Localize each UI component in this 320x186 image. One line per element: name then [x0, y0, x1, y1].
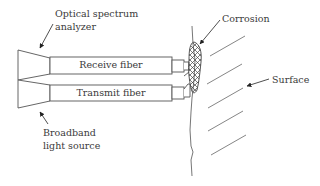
- corrosion-label: Corrosion: [222, 12, 270, 25]
- source-label: Broadband light source: [43, 126, 100, 152]
- source-arrow: [40, 112, 48, 124]
- transmit-fiber-tip: [184, 84, 190, 97]
- source-label-line2: light source: [43, 139, 100, 152]
- source-label-line1: Broadband: [43, 126, 100, 139]
- analyzer-label: Optical spectrum analyzer: [55, 7, 138, 33]
- diagram-canvas: Receive fiber Transmit fiber Optical spe…: [0, 0, 320, 186]
- surface-hatching: [207, 36, 246, 155]
- corrosion-arrow: [200, 20, 220, 44]
- surface-label: Surface: [272, 73, 309, 86]
- corrosion-region: [189, 42, 202, 93]
- analyzer-label-line1: Optical spectrum: [55, 7, 138, 20]
- transmit-fiber-flare: [18, 80, 50, 108]
- receive-fiber-flare: [18, 50, 50, 80]
- surface-arrow: [247, 79, 269, 86]
- analyzer-label-line2: analyzer: [55, 20, 138, 33]
- transmit-fiber-label: Transmit fiber: [50, 87, 172, 98]
- transmit-fiber-connector: [172, 87, 184, 99]
- receive-fiber-label: Receive fiber: [50, 59, 172, 70]
- analyzer-arrow: [40, 24, 53, 48]
- receive-fiber-connector: [172, 60, 184, 72]
